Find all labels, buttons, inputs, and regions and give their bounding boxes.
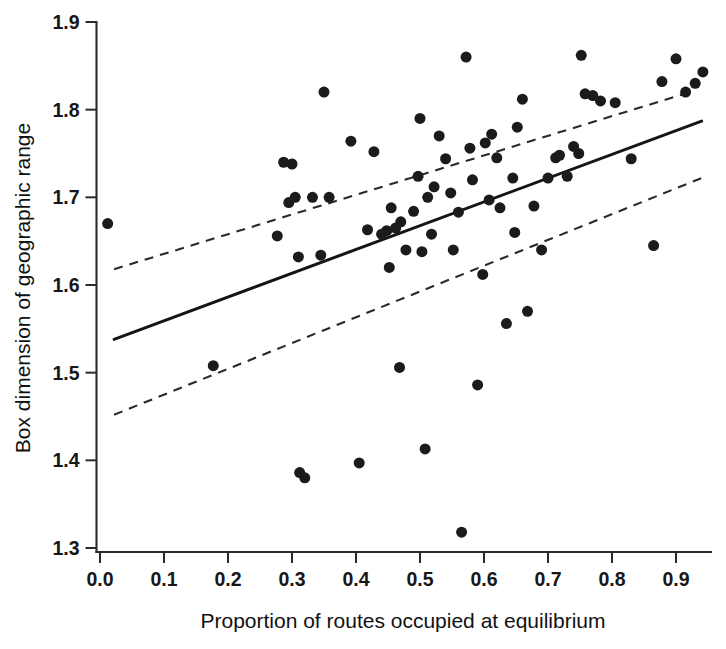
data-point bbox=[464, 143, 475, 154]
x-axis-ticks bbox=[100, 552, 676, 563]
data-point bbox=[422, 192, 433, 203]
y-tick-label: 1.4 bbox=[52, 449, 79, 471]
data-point bbox=[420, 443, 431, 454]
data-point bbox=[626, 153, 637, 164]
data-point bbox=[507, 173, 518, 184]
data-point bbox=[461, 52, 472, 63]
data-point bbox=[293, 251, 304, 262]
data-point bbox=[610, 97, 621, 108]
plot-canvas: 0.00.10.20.30.40.50.60.70.80.9 1.31.41.5… bbox=[0, 0, 726, 649]
data-point bbox=[413, 171, 424, 182]
y-axis-tick-labels: 1.31.41.51.61.71.81.9 bbox=[52, 11, 79, 559]
data-point bbox=[528, 201, 539, 212]
data-point bbox=[426, 229, 437, 240]
x-tick-label: 0.7 bbox=[534, 568, 561, 590]
scatter-plot-figure: 0.00.10.20.30.40.50.60.70.80.9 1.31.41.5… bbox=[0, 0, 726, 649]
data-point bbox=[477, 269, 488, 280]
data-point bbox=[554, 150, 565, 161]
data-point bbox=[315, 250, 326, 261]
y-axis-title: Box dimension of geographic range bbox=[11, 123, 34, 453]
data-point bbox=[486, 129, 497, 140]
x-tick-label: 0.2 bbox=[214, 568, 241, 590]
x-axis-title: Proportion of routes occupied at equilib… bbox=[200, 609, 605, 632]
data-point bbox=[102, 218, 113, 229]
data-point bbox=[484, 194, 495, 205]
data-point bbox=[495, 202, 506, 213]
data-point bbox=[680, 87, 691, 98]
data-point bbox=[595, 95, 606, 106]
y-tick-label: 1.5 bbox=[52, 362, 79, 384]
data-point bbox=[648, 240, 659, 251]
data-point bbox=[512, 122, 523, 133]
data-point bbox=[434, 130, 445, 141]
data-point bbox=[299, 472, 310, 483]
x-tick-label: 0.9 bbox=[662, 568, 689, 590]
data-point bbox=[562, 171, 573, 182]
data-point bbox=[415, 113, 426, 124]
x-tick-label: 0.5 bbox=[406, 568, 433, 590]
data-point bbox=[509, 227, 520, 238]
data-point bbox=[491, 152, 502, 163]
data-point bbox=[445, 187, 456, 198]
x-axis-tick-labels: 0.00.10.20.30.40.50.60.70.80.9 bbox=[86, 568, 689, 590]
data-point bbox=[690, 78, 701, 89]
data-point bbox=[287, 159, 298, 170]
regression-line bbox=[114, 121, 702, 339]
data-point bbox=[522, 306, 533, 317]
data-point bbox=[440, 153, 451, 164]
data-point bbox=[368, 146, 379, 157]
data-point bbox=[456, 527, 467, 538]
data-point bbox=[324, 192, 335, 203]
y-tick-label: 1.6 bbox=[52, 274, 79, 296]
data-point bbox=[384, 262, 395, 273]
x-tick-label: 0.4 bbox=[342, 568, 369, 590]
y-axis-ticks bbox=[86, 22, 97, 548]
data-point bbox=[501, 318, 512, 329]
data-point bbox=[573, 148, 584, 159]
data-point bbox=[697, 66, 708, 77]
x-tick-label: 0.0 bbox=[86, 568, 113, 590]
data-point bbox=[345, 136, 356, 147]
data-point bbox=[517, 94, 528, 105]
x-tick-label: 0.8 bbox=[598, 568, 625, 590]
data-point bbox=[354, 457, 365, 468]
regression-fit bbox=[114, 121, 702, 339]
x-tick-label: 0.6 bbox=[470, 568, 497, 590]
data-point bbox=[576, 50, 587, 61]
y-tick-label: 1.9 bbox=[52, 11, 79, 33]
y-tick-label: 1.3 bbox=[52, 537, 79, 559]
data-point bbox=[362, 224, 373, 235]
data-point bbox=[467, 174, 478, 185]
data-point bbox=[319, 87, 330, 98]
confidence-lower bbox=[114, 178, 702, 415]
data-point bbox=[208, 360, 219, 371]
data-point bbox=[272, 230, 283, 241]
data-point bbox=[448, 244, 459, 255]
y-tick-label: 1.7 bbox=[52, 186, 79, 208]
data-point-group bbox=[102, 50, 708, 538]
data-point bbox=[408, 206, 419, 217]
confidence-upper bbox=[114, 92, 690, 269]
data-point bbox=[400, 244, 411, 255]
x-tick-label: 0.3 bbox=[278, 568, 305, 590]
data-point bbox=[416, 246, 427, 257]
data-point bbox=[480, 137, 491, 148]
y-tick-label: 1.8 bbox=[52, 99, 79, 121]
data-point bbox=[543, 173, 554, 184]
data-point bbox=[307, 192, 318, 203]
data-point bbox=[429, 181, 440, 192]
data-point bbox=[671, 53, 682, 64]
data-point bbox=[386, 202, 397, 213]
data-point bbox=[290, 192, 301, 203]
data-point bbox=[472, 379, 483, 390]
data-point bbox=[656, 76, 667, 87]
data-point bbox=[453, 207, 464, 218]
x-tick-label: 0.1 bbox=[150, 568, 177, 590]
data-point bbox=[395, 216, 406, 227]
data-point bbox=[536, 244, 547, 255]
data-point bbox=[394, 362, 405, 373]
